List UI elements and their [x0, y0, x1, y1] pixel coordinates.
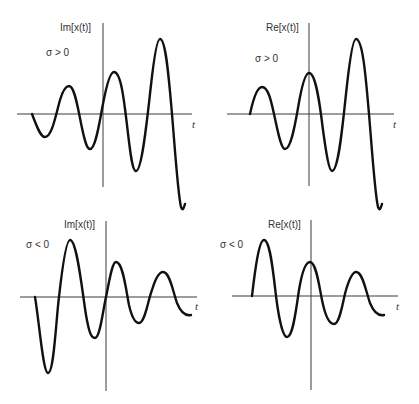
y-axis-label: Im[x(t)] [64, 219, 95, 230]
t-axis-label: t [393, 118, 397, 130]
y-axis-label: Re[x(t)] [268, 219, 301, 230]
panel-im-sigma-positive: Im[x(t)] σ > 0 t [17, 22, 196, 209]
t-axis-label: t [396, 300, 400, 312]
t-axis-label: t [192, 118, 196, 130]
signal-curve [35, 240, 191, 373]
y-axis-label: Re[x(t)] [266, 22, 299, 33]
panel-re-sigma-negative: Re[x(t)] σ < 0 t [220, 219, 400, 390]
condition-label: σ > 0 [46, 47, 70, 58]
t-axis-label: t [195, 300, 199, 312]
condition-label: σ < 0 [26, 239, 50, 250]
condition-label: σ < 0 [220, 239, 244, 250]
signal-curve [252, 240, 384, 337]
condition-label: σ > 0 [255, 53, 279, 64]
complex-exponential-diagram: Im[x(t)] σ > 0 t Re[x(t)] σ > 0 t Im[x(t… [0, 0, 419, 404]
panel-im-sigma-negative: Im[x(t)] σ < 0 t [20, 219, 199, 391]
signal-curve [250, 39, 382, 209]
signal-curve [32, 39, 185, 209]
panel-re-sigma-positive: Re[x(t)] σ > 0 t [227, 22, 397, 209]
y-axis-label: Im[x(t)] [60, 22, 91, 33]
